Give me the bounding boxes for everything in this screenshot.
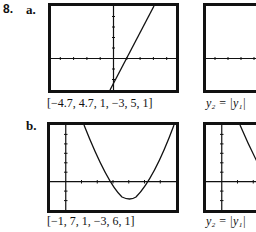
window-caption-b: [−1, 7, 1, −3, 6, 1] xyxy=(47,214,135,229)
graph-b-y2 xyxy=(203,122,256,213)
window-caption-a: [−4.7, 4.7, 1, −3, 5, 1] xyxy=(47,96,153,111)
y2-formula: y₂ = |y₁| xyxy=(206,96,246,110)
graph-b-y1 xyxy=(47,122,179,213)
problem-number: 8. xyxy=(3,2,13,16)
graph-a-y1 xyxy=(48,3,179,93)
y2-formula: y₂ = |y₁| xyxy=(206,214,246,228)
y2-caption-b: y₂ = |y₁| xyxy=(206,214,246,229)
graph-a-y2 xyxy=(203,3,256,93)
part-a-label: a. xyxy=(26,2,36,18)
y2-caption-a: y₂ = |y₁| xyxy=(206,96,246,111)
part-b-label: b. xyxy=(26,118,36,134)
